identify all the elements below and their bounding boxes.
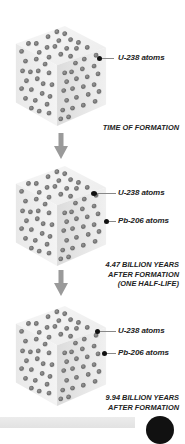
pb206-label: Pb-206 atoms	[118, 216, 169, 225]
leader-line	[107, 353, 116, 354]
atom-cube	[10, 160, 108, 270]
footer-bar	[0, 417, 135, 428]
leader-line	[97, 193, 116, 194]
leader-line	[109, 221, 116, 222]
u238-label: U-238 atoms	[118, 188, 164, 197]
stage-caption: TIME OF FORMATION	[103, 123, 179, 133]
stage-one-half-life: U-238 atoms Pb-206 atoms 4.47 BILLION YE…	[0, 160, 185, 295]
down-arrow-icon	[54, 270, 68, 296]
atom-cube	[10, 300, 108, 410]
stage-caption: 4.47 BILLION YEARS AFTER FORMATION (ONE …	[106, 260, 179, 289]
down-arrow-icon	[54, 133, 68, 159]
atom-cube	[10, 20, 108, 130]
u238-label: U-238 atoms	[118, 53, 164, 62]
stage-caption: 9.94 BILLION YEARS AFTER FORMATION	[106, 393, 179, 412]
pb206-label: Pb-206 atoms	[118, 348, 169, 357]
u238-label: U-238 atoms	[118, 326, 164, 335]
stage-two-half-lives: U-238 atoms Pb-206 atoms 9.94 BILLION YE…	[0, 300, 185, 415]
leader-line	[102, 58, 114, 59]
page-marker-icon	[146, 416, 174, 444]
leader-line	[100, 331, 116, 332]
stage-time-of-formation: U-238 atoms TIME OF FORMATION	[0, 0, 185, 130]
